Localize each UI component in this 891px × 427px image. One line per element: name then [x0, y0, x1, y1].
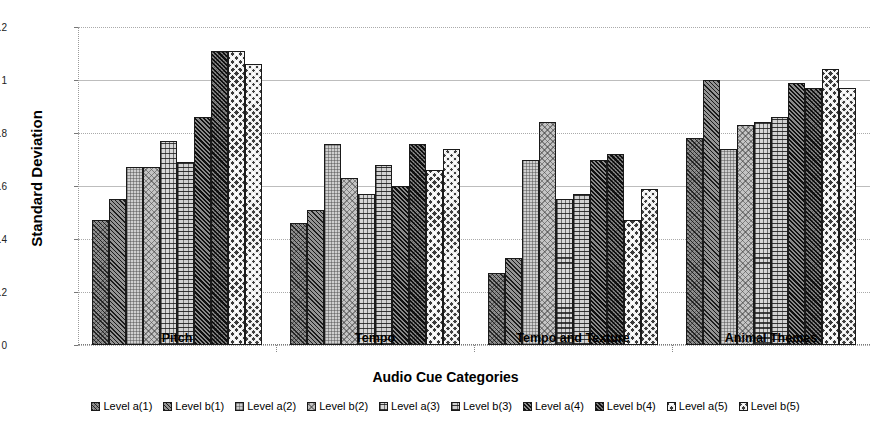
legend-swatch-icon — [739, 402, 748, 411]
bar[interactable] — [822, 69, 839, 345]
bar[interactable] — [641, 189, 658, 345]
bar[interactable] — [624, 220, 641, 345]
bars-row — [488, 27, 658, 345]
bars-row — [92, 27, 262, 345]
x-axis-title: Audio Cue Categories — [0, 369, 891, 385]
bar[interactable] — [409, 144, 426, 345]
bar[interactable] — [737, 125, 754, 345]
bar[interactable] — [590, 160, 607, 346]
category-label: Pitch — [78, 331, 276, 345]
bar[interactable] — [358, 194, 375, 345]
bar[interactable] — [307, 210, 324, 345]
bar[interactable] — [211, 51, 228, 345]
legend-label: Level a(1) — [103, 400, 152, 412]
legend-item[interactable]: Level a(1) — [91, 400, 152, 412]
bars-layer — [78, 27, 870, 345]
legend-item[interactable]: Level a(3) — [379, 400, 440, 412]
legend-swatch-icon — [91, 402, 100, 411]
category-label: Animal Themes — [672, 331, 870, 345]
bar[interactable] — [754, 122, 771, 345]
legend-label: Level a(3) — [391, 400, 440, 412]
legend-swatch-icon — [379, 402, 388, 411]
legend-item[interactable]: Level a(2) — [235, 400, 296, 412]
legend-item[interactable]: Level b(4) — [595, 400, 656, 412]
bar[interactable] — [324, 144, 341, 345]
bar[interactable] — [720, 149, 737, 345]
legend-swatch-icon — [667, 402, 676, 411]
legend-label: Level b(5) — [751, 400, 800, 412]
bar[interactable] — [771, 117, 788, 345]
legend-item[interactable]: Level a(4) — [523, 400, 584, 412]
y-tick-mark — [74, 345, 78, 346]
bar-group — [686, 27, 856, 345]
bar[interactable] — [245, 64, 262, 345]
legend-swatch-icon — [595, 402, 604, 411]
bar[interactable] — [341, 178, 358, 345]
bars-row — [290, 27, 460, 345]
plot-area — [78, 27, 870, 345]
y-axis-title: Standard Deviation — [28, 59, 45, 299]
y-tick-label: 1 — [0, 75, 7, 86]
bar-group — [488, 27, 658, 345]
bar[interactable] — [290, 223, 307, 345]
legend-label: Level b(2) — [319, 400, 368, 412]
bar[interactable] — [805, 88, 822, 345]
legend-swatch-icon — [451, 402, 460, 411]
y-tick-label: 0.8 — [0, 128, 7, 139]
legend-swatch-icon — [307, 402, 316, 411]
bar[interactable] — [788, 83, 805, 345]
legend-swatch-icon — [523, 402, 532, 411]
bar[interactable] — [522, 160, 539, 346]
bar[interactable] — [556, 199, 573, 345]
bar[interactable] — [143, 167, 160, 345]
bar[interactable] — [177, 162, 194, 345]
category-label: Tempo — [276, 331, 474, 345]
bar[interactable] — [375, 165, 392, 345]
bar-chart: Standard Deviation 00.20.40.60.811.2 Pit… — [0, 0, 891, 427]
bar[interactable] — [703, 80, 720, 345]
legend-item[interactable]: Level b(3) — [451, 400, 512, 412]
legend-item[interactable]: Level b(5) — [739, 400, 800, 412]
legend-label: Level a(2) — [247, 400, 296, 412]
bar[interactable] — [686, 138, 703, 345]
y-tick-mark — [74, 27, 78, 28]
y-tick-label: 0.4 — [0, 234, 7, 245]
legend-item[interactable]: Level b(2) — [307, 400, 368, 412]
y-tick-mark — [74, 133, 78, 134]
bar[interactable] — [573, 194, 590, 345]
legend: Level a(1)Level b(1)Level a(2)Level b(2)… — [0, 400, 891, 412]
legend-label: Level a(5) — [679, 400, 728, 412]
legend-item[interactable]: Level a(5) — [667, 400, 728, 412]
legend-label: Level b(4) — [607, 400, 656, 412]
bar[interactable] — [228, 51, 245, 345]
y-tick-mark — [74, 239, 78, 240]
y-tick-mark — [74, 292, 78, 293]
bar[interactable] — [839, 88, 856, 345]
x-axis-group-separator — [672, 345, 673, 352]
bar[interactable] — [607, 154, 624, 345]
bar[interactable] — [443, 149, 460, 345]
legend-label: Level b(1) — [175, 400, 224, 412]
x-axis-group-separator — [276, 345, 277, 352]
legend-label: Level b(3) — [463, 400, 512, 412]
bar-group — [290, 27, 460, 345]
bar[interactable] — [126, 167, 143, 345]
y-tick-label: 0.6 — [0, 181, 7, 192]
legend-swatch-icon — [163, 402, 172, 411]
legend-label: Level a(4) — [535, 400, 584, 412]
y-tick-label: 0.2 — [0, 287, 7, 298]
y-tick-mark — [74, 80, 78, 81]
bar[interactable] — [392, 186, 409, 345]
x-axis-group-separator — [474, 345, 475, 352]
bar[interactable] — [92, 220, 109, 345]
category-label: Tempo and Texture — [474, 331, 672, 345]
y-tick-label: 0 — [0, 340, 7, 351]
bar[interactable] — [539, 122, 556, 345]
bar[interactable] — [194, 117, 211, 345]
legend-swatch-icon — [235, 402, 244, 411]
legend-item[interactable]: Level b(1) — [163, 400, 224, 412]
bar[interactable] — [426, 170, 443, 345]
y-tick-mark — [74, 186, 78, 187]
bar[interactable] — [160, 141, 177, 345]
bar[interactable] — [109, 199, 126, 345]
